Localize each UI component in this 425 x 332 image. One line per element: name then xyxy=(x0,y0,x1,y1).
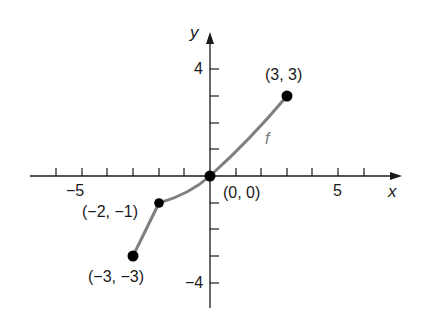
x-axis-arrow-icon xyxy=(390,172,402,180)
point-label-m2-m1: (−2, −1) xyxy=(82,204,138,220)
point-m3-m3 xyxy=(128,251,139,262)
point-label-0-0: (0, 0) xyxy=(223,185,260,201)
point-0-0 xyxy=(205,171,216,182)
y-tick-label-4: 4 xyxy=(194,61,203,77)
y-axis-arrow-icon xyxy=(206,32,214,44)
y-axis-label: y xyxy=(190,24,199,41)
x-axis-label: x xyxy=(388,183,397,200)
point-3-3 xyxy=(282,91,293,102)
point-label-3-3: (3, 3) xyxy=(265,67,302,83)
point-label-m3-m3: (−3, −3) xyxy=(88,269,144,285)
graph-canvas xyxy=(0,0,425,332)
function-label-f: f xyxy=(265,131,269,147)
point-m2-m1 xyxy=(154,198,164,208)
x-tick-label-5: 5 xyxy=(333,183,342,199)
x-tick-label-neg5: −5 xyxy=(66,183,84,199)
y-tick-label-neg4: −4 xyxy=(185,275,203,291)
